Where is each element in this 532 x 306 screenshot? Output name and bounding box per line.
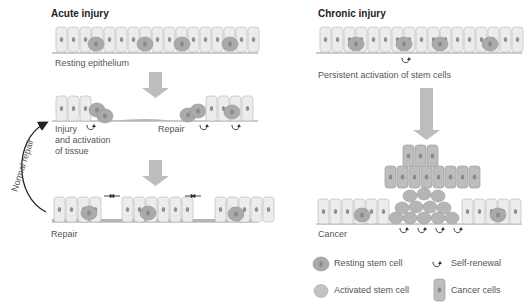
injury-label-line-2: and activation xyxy=(55,135,111,146)
self-renewal-icon xyxy=(433,261,442,267)
chronic-resting-epithelium xyxy=(316,27,523,63)
acute-repair-epithelium xyxy=(52,195,274,223)
legend-self-renewal: Self-renewal xyxy=(451,258,501,269)
chronic-cancer-tissue xyxy=(316,145,522,233)
acute-down-arrow-2 xyxy=(142,160,169,186)
acute-down-arrow-1 xyxy=(142,72,169,98)
legend-resting-stem-cell: Resting stem cell xyxy=(334,258,403,269)
injury-label-line-3: of tissue xyxy=(55,146,111,157)
legend-cancer-cells: Cancer cells xyxy=(451,285,501,296)
resting-stem-cell-icon xyxy=(313,257,329,271)
cancer-cell-icon xyxy=(434,279,445,301)
acute-resting-epithelium xyxy=(52,27,259,53)
injury-repair-label: Repair xyxy=(158,124,185,135)
persistent-activation-label: Persistent activation of stem cells xyxy=(318,70,451,81)
acute-repair-label: Repair xyxy=(51,229,78,240)
cancer-label: Cancer xyxy=(318,229,347,240)
injury-label: Injury and activation of tissue xyxy=(55,124,111,157)
injury-label-line-1: Injury xyxy=(55,124,111,135)
resting-epithelium-label: Resting epithelium xyxy=(55,58,129,69)
activated-stem-cell-icon xyxy=(314,285,328,298)
chronic-title: Chronic injury xyxy=(318,8,386,19)
legend-activated-stem-cell: Activated stem cell xyxy=(334,285,409,296)
chronic-down-arrow xyxy=(413,88,440,140)
acute-title: Acute injury xyxy=(51,8,109,19)
